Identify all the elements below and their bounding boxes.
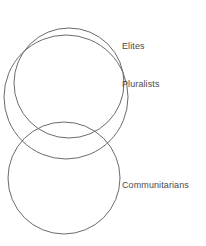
venn-diagram: Elites Pluralists Communitarians (0, 0, 206, 246)
circle-communitarians (8, 122, 120, 234)
venn-circles-group (0, 0, 206, 246)
label-communitarians: Communitarians (122, 180, 189, 191)
circle-elites (14, 28, 124, 138)
label-elites: Elites (122, 41, 145, 52)
label-pluralists: Pluralists (122, 79, 160, 90)
